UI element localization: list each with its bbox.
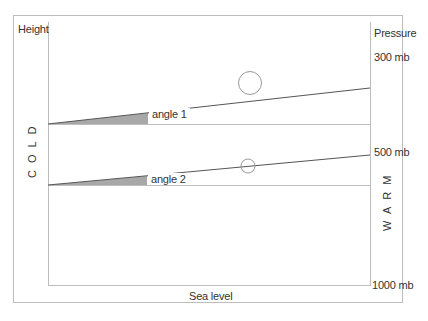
pressure-height-diagram: Height Pressure 300 mb 500 mb 1000 mb an… — [0, 0, 428, 321]
sea-level-label: Sea level — [189, 290, 232, 302]
warm-side-label: WARM — [381, 177, 393, 231]
height-axis-label: Height — [18, 23, 49, 35]
diagram-graphics — [0, 0, 428, 321]
pressure-label-300mb: 300 mb — [374, 51, 410, 63]
outer-frame — [14, 16, 403, 303]
angle-2-label: angle 2 — [148, 173, 189, 185]
pressure-axis-label: Pressure — [374, 27, 416, 39]
pressure-surface-500mb — [48, 155, 370, 185]
pressure-label-500mb: 500 mb — [374, 146, 410, 158]
angle-1-label: angle 1 — [149, 108, 190, 120]
cold-side-label: COLD — [26, 128, 38, 178]
pressure-label-1000mb: 1000 mb — [372, 279, 413, 291]
pressure-surface-300mb — [48, 88, 370, 124]
slope-highlight-circle-upper — [239, 72, 262, 95]
